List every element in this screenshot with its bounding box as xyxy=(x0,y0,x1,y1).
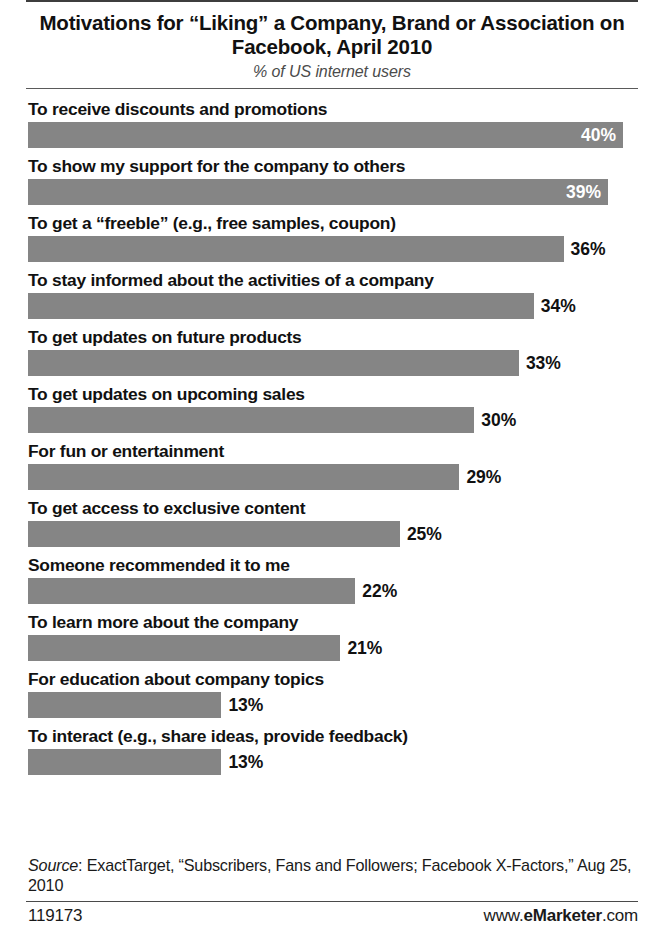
bar-track: 29% xyxy=(28,464,644,490)
chart-subtitle: % of US internet users xyxy=(30,63,634,81)
bar-value-label: 29% xyxy=(466,464,501,490)
bar: 39% xyxy=(28,179,608,205)
bar-track: 34% xyxy=(28,293,644,319)
bar-track: 36% xyxy=(28,236,644,262)
source-label: Source xyxy=(28,856,78,874)
bar: 25% xyxy=(28,521,400,547)
bar-category-label: For education about company topics xyxy=(28,667,324,692)
bar: 22% xyxy=(28,578,355,604)
chart-header: Motivations for “Liking” a Company, Bran… xyxy=(0,2,664,88)
bar-value-label: 39% xyxy=(566,179,601,205)
bar-value-label: 30% xyxy=(481,407,516,433)
chart-id-number: 119173 xyxy=(28,906,82,926)
bar-row: To show my support for the company to ot… xyxy=(0,154,664,211)
bar-track: 22% xyxy=(28,578,644,604)
bar: 40% xyxy=(28,122,623,148)
bar-category-label: To get updates on upcoming sales xyxy=(28,382,305,407)
chart-footer: Source: ExactTarget, “Subscribers, Fans … xyxy=(0,855,664,926)
brand-suffix: .com xyxy=(602,906,638,925)
bar-value-label: 40% xyxy=(581,122,616,148)
bar-track: 40% xyxy=(28,122,644,148)
bar-track: 30% xyxy=(28,407,644,433)
bar: 21% xyxy=(28,635,340,661)
bar-row: To get a “freeble” (e.g., free samples, … xyxy=(0,211,664,268)
bar-chart: To receive discounts and promotions40%To… xyxy=(0,89,664,781)
bar: 13% xyxy=(28,692,221,718)
bar-row: To stay informed about the activities of… xyxy=(0,268,664,325)
emarketer-brand: www.eMarketer.com xyxy=(484,906,638,926)
bar-row: To get updates on upcoming sales30% xyxy=(0,382,664,439)
bar-row: For education about company topics13% xyxy=(0,667,664,724)
bar-category-label: To show my support for the company to ot… xyxy=(28,154,405,179)
bar-track: 39% xyxy=(28,179,644,205)
bar-category-label: Someone recommended it to me xyxy=(28,553,290,578)
bar-value-label: 22% xyxy=(362,578,397,604)
bar-row: To interact (e.g., share ideas, provide … xyxy=(0,724,664,781)
bar-value-label: 25% xyxy=(407,521,442,547)
brand-name: eMarketer xyxy=(523,906,602,925)
bar: 29% xyxy=(28,464,459,490)
bar-value-label: 13% xyxy=(228,692,263,718)
bar-category-label: To get a “freeble” (e.g., free samples, … xyxy=(28,211,396,236)
bar-track: 25% xyxy=(28,521,644,547)
bar: 36% xyxy=(28,236,564,262)
bar-row: Someone recommended it to me22% xyxy=(0,553,664,610)
bar-category-label: To get updates on future products xyxy=(28,325,302,350)
bar-category-label: To interact (e.g., share ideas, provide … xyxy=(28,724,408,749)
bar: 13% xyxy=(28,749,221,775)
bar-track: 13% xyxy=(28,692,644,718)
bar-value-label: 34% xyxy=(541,293,576,319)
chart-sheet: Motivations for “Liking” a Company, Bran… xyxy=(0,0,664,940)
source-note: Source: ExactTarget, “Subscribers, Fans … xyxy=(0,855,664,901)
bar-row: To get updates on future products33% xyxy=(0,325,664,382)
bar-category-label: To learn more about the company xyxy=(28,610,298,635)
bar-value-label: 21% xyxy=(347,635,382,661)
bar-row: For fun or entertainment29% xyxy=(0,439,664,496)
bar-track: 21% xyxy=(28,635,644,661)
bar: 30% xyxy=(28,407,474,433)
bar-category-label: To get access to exclusive content xyxy=(28,496,305,521)
bar-category-label: To receive discounts and promotions xyxy=(28,97,327,122)
bar-category-label: For fun or entertainment xyxy=(28,439,224,464)
bar-category-label: To stay informed about the activities of… xyxy=(28,268,434,293)
bar-row: To get access to exclusive content25% xyxy=(0,496,664,553)
source-text: : ExactTarget, “Subscribers, Fans and Fo… xyxy=(28,856,631,894)
bar-row: To receive discounts and promotions40% xyxy=(0,97,664,154)
bar-track: 13% xyxy=(28,749,644,775)
bar-value-label: 36% xyxy=(571,236,606,262)
bar: 33% xyxy=(28,350,519,376)
bar: 34% xyxy=(28,293,534,319)
bar-track: 33% xyxy=(28,350,644,376)
footer-row: 119173 www.eMarketer.com xyxy=(0,902,664,926)
chart-title: Motivations for “Liking” a Company, Bran… xyxy=(30,11,634,59)
bar-row: To learn more about the company21% xyxy=(0,610,664,667)
bar-value-label: 33% xyxy=(526,350,561,376)
brand-prefix: www. xyxy=(484,906,524,925)
bar-value-label: 13% xyxy=(228,749,263,775)
